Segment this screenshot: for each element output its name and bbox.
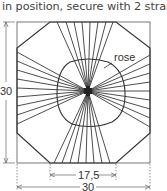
inner-width-label: 17,5: [78, 169, 99, 181]
center-knot: [84, 86, 92, 96]
rose-leader: [104, 63, 112, 68]
height-label: 30: [0, 85, 12, 97]
radiating-strands: [17, 22, 150, 163]
rose-label: rose: [114, 51, 135, 63]
rose-placement-diagram: rose 30 17,5 30: [0, 0, 167, 191]
outer-width-label: 30: [82, 181, 94, 191]
